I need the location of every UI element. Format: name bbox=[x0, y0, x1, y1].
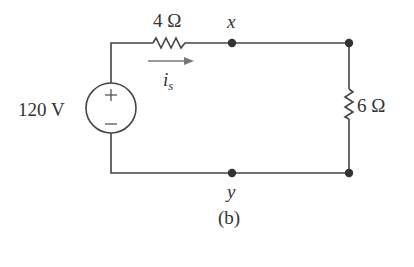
resistor-4-ohm-label: 4 Ω bbox=[153, 11, 181, 30]
resistor-6-ohm bbox=[345, 89, 353, 119]
node-bottom-right bbox=[345, 169, 353, 177]
figure-caption: (b) bbox=[218, 208, 240, 227]
node-top-right bbox=[345, 39, 353, 47]
source-voltage-label: 120 V bbox=[18, 100, 65, 119]
circuit-diagram bbox=[0, 0, 414, 267]
arrow-right-icon bbox=[184, 57, 194, 65]
node-y bbox=[228, 169, 236, 177]
node-y-label: y bbox=[227, 182, 235, 201]
resistor-4-ohm bbox=[153, 38, 188, 48]
current-label-subscript: s bbox=[168, 78, 173, 93]
node-x bbox=[228, 39, 236, 47]
wire-bottom bbox=[111, 133, 349, 173]
resistor-6-ohm-label: 6 Ω bbox=[357, 96, 385, 115]
node-x-label: x bbox=[227, 12, 235, 31]
current-label: is bbox=[163, 70, 173, 89]
wire-left-top bbox=[111, 43, 153, 83]
